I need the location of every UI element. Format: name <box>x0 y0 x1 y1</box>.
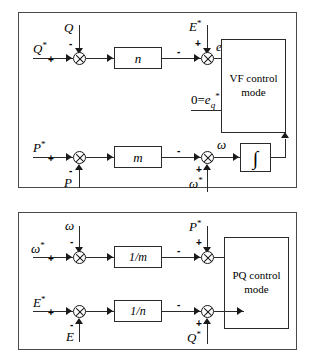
sum-junction-e-pq <box>73 305 86 318</box>
sign-omega-star-plus: + <box>196 165 202 175</box>
q-error-arrowhead <box>107 54 113 62</box>
sign-p-star-plus-pq: + <box>196 238 202 248</box>
label-zero-eq-star: 0=eq* <box>191 92 220 110</box>
sign-e-star-plus-pq: + <box>48 308 54 318</box>
label-q-star-pq: Q* <box>187 330 201 344</box>
sum-junction-e <box>201 52 214 65</box>
gain-block-inv-m: 1/m <box>114 246 162 268</box>
sum-junction-omega-pq <box>73 251 86 264</box>
p-feedback-arrowhead <box>75 164 83 170</box>
pq-control-panel: ω* + ω - 1/m - P* + PQ control mode E* +… <box>18 212 297 350</box>
integral-icon: ∫ <box>253 148 258 168</box>
sign-e-star-plus: + <box>195 39 201 49</box>
omega-arrowhead <box>233 153 239 161</box>
pq-bottom-output-arrowhead <box>237 307 243 315</box>
sign-omega-star-plus-pq: + <box>48 254 54 264</box>
m-output-arrowhead <box>194 153 200 161</box>
sign-p-star-plus: + <box>48 154 54 164</box>
sum-junction-p <box>73 151 86 164</box>
inv-n-output-arrowhead <box>194 307 200 315</box>
sign-inv-n-output-minus: - <box>177 300 180 310</box>
sign-p-minus: - <box>69 166 72 176</box>
sign-m-output-minus: - <box>177 146 180 156</box>
integrator-feed-arrowhead <box>281 132 289 138</box>
gain-block-n: n <box>114 47 162 69</box>
e-feedback-line <box>79 324 80 342</box>
sign-q-minus: - <box>69 39 72 49</box>
integrator-block: ∫ <box>240 143 271 172</box>
vf-control-panel: Q* + Q - n - E* + ed* 0=eq* VF control m… <box>18 12 297 188</box>
e-star-arrowhead-pq <box>66 307 72 315</box>
sign-inv-m-output-minus: - <box>177 246 180 256</box>
e-feedback-arrowhead <box>75 318 83 324</box>
label-omega: ω <box>217 138 226 151</box>
pq-control-mode-block: PQ control mode <box>224 237 289 329</box>
sum-junction-p-pq <box>201 251 214 264</box>
sign-q-star-plus-pq: + <box>196 319 202 329</box>
omega-error-arrowhead <box>107 253 113 261</box>
label-q: Q <box>64 21 73 34</box>
e-error-arrowhead <box>107 307 113 315</box>
vf-control-mode-block: VF control mode <box>221 39 286 133</box>
sign-omega-minus-pq: - <box>70 237 73 247</box>
vf-block-line1: VF control <box>230 72 278 84</box>
omega-star-arrowhead-pq <box>66 253 72 261</box>
label-e-star: E* <box>189 19 201 33</box>
n-output-arrowhead <box>194 54 200 62</box>
label-omega-star: ω* <box>189 176 203 190</box>
gain-block-inv-n: 1/n <box>114 300 162 322</box>
label-e-pq: E <box>66 330 74 343</box>
vf-block-line2: mode <box>241 86 265 98</box>
integrator-feed-vertical <box>285 139 286 158</box>
p-feedback-line <box>79 170 80 188</box>
p-star-arrowhead <box>66 153 72 161</box>
sign-q-star-plus: + <box>48 55 54 65</box>
label-q-star: Q* <box>33 41 47 55</box>
sign-n-output-minus: - <box>177 47 180 57</box>
integrator-output-line <box>271 157 286 158</box>
label-p: P <box>64 176 72 189</box>
omega-star-arrowhead <box>203 164 211 170</box>
inv-m-output-arrowhead <box>194 253 200 261</box>
q-star-arrowhead <box>66 54 72 62</box>
gain-block-m: m <box>114 146 162 168</box>
label-p-star-pq: P* <box>189 219 201 233</box>
p-error-arrowhead <box>107 153 113 161</box>
sign-e-minus-pq: - <box>70 320 73 330</box>
label-omega-star-pq: ω* <box>31 241 45 255</box>
pq-block-line1: PQ control <box>233 269 281 281</box>
label-omega-pq: ω <box>65 219 74 232</box>
label-e-star-pq: E* <box>33 295 45 309</box>
sum-junction-omega <box>201 151 214 164</box>
q-star-input-line-pq <box>207 324 208 344</box>
omega-star-input-line <box>207 170 208 192</box>
sum-junction-q <box>73 52 86 65</box>
q-star-arrowhead-pq <box>203 318 211 324</box>
sum-junction-q-pq <box>201 305 214 318</box>
pq-block-line2: mode <box>244 283 268 295</box>
label-p-star: P* <box>33 140 45 154</box>
